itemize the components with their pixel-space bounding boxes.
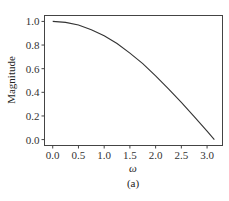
y-tick-label: 0.4 bbox=[26, 86, 40, 98]
y-tick-label: 1.0 bbox=[26, 15, 40, 27]
y-axis: 0.00.20.40.60.81.0 bbox=[26, 15, 45, 145]
x-axis-label: ω bbox=[129, 162, 137, 174]
y-axis-label: Magnitude bbox=[5, 56, 17, 104]
x-tick-label: 1.0 bbox=[97, 149, 111, 161]
x-tick-label: 3.0 bbox=[200, 149, 214, 161]
x-tick-label: 1.5 bbox=[123, 149, 137, 161]
x-tick-label: 0.0 bbox=[46, 149, 60, 161]
x-axis: 0.00.51.01.52.02.53.0 bbox=[46, 146, 215, 161]
x-tick-label: 0.5 bbox=[72, 149, 86, 161]
y-tick-label: 0.8 bbox=[26, 39, 40, 51]
x-tick-label: 2.5 bbox=[174, 149, 188, 161]
magnitude-chart: 0.00.51.01.52.02.53.0 0.00.20.40.60.81.0… bbox=[0, 0, 229, 201]
plot-frame bbox=[45, 16, 223, 146]
figure-caption: (a) bbox=[127, 177, 140, 190]
y-tick-label: 0.0 bbox=[26, 134, 40, 146]
y-tick-label: 0.2 bbox=[26, 110, 40, 122]
y-tick-label: 0.6 bbox=[26, 63, 40, 75]
series-line-magnitude bbox=[53, 21, 215, 139]
x-tick-label: 2.0 bbox=[149, 149, 163, 161]
